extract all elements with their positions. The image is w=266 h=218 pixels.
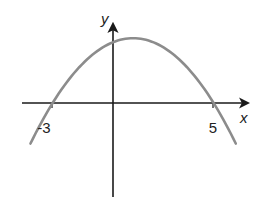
parabola-chart: y x -3 5 xyxy=(0,0,266,218)
tick-label-left-root: -3 xyxy=(37,119,50,136)
y-axis-label: y xyxy=(100,10,110,27)
x-axis-label: x xyxy=(239,109,248,126)
tick-label-right-root: 5 xyxy=(209,119,217,136)
parabola-curve xyxy=(30,38,235,143)
